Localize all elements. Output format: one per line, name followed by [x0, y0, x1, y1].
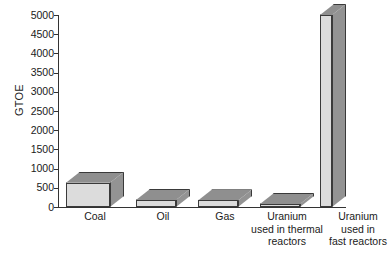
bar-oil-1[interactable]: [136, 189, 190, 207]
bar-3d-box: [198, 189, 252, 207]
y-axis-tick-mark: [54, 34, 58, 35]
bar-uranium-3[interactable]: [260, 193, 314, 207]
y-axis-tick-mark: [54, 73, 58, 74]
bar-3d-box: [136, 189, 190, 207]
x-axis-tick-label-line: Coal: [60, 210, 130, 223]
bar-uranium-4[interactable]: [320, 4, 346, 207]
bar-front-face: [66, 183, 110, 207]
plot-area: [58, 8, 346, 208]
y-axis-tick-mark: [54, 111, 58, 112]
bar-front-face: [136, 200, 176, 207]
y-axis-tick-label: 0: [22, 202, 54, 213]
x-axis-tick-label: Coal: [60, 210, 130, 223]
x-axis-tick-label-line: used in: [312, 223, 392, 236]
y-axis-tick-labels: 0500100015002000250030003500400045005000: [22, 10, 54, 213]
y-axis-tick-mark: [54, 130, 58, 131]
y-axis-tick-label: 2500: [22, 106, 54, 117]
y-axis-tick-mark: [54, 169, 58, 170]
y-axis-tick-label: 1000: [22, 163, 54, 174]
bar-side-face: [332, 4, 346, 207]
y-axis-tick-mark: [54, 149, 58, 150]
bar-3d-box: [320, 4, 346, 207]
x-axis-tick-labels: CoalOilGasUraniumused in thermalreactors…: [58, 210, 346, 264]
x-axis-tick-label-line: Uranium: [312, 210, 392, 223]
x-axis-tick-label: Oil: [133, 210, 193, 223]
y-axis-tick-label: 3500: [22, 67, 54, 78]
y-axis-tick-mark: [54, 15, 58, 16]
y-axis-tick-label: 2000: [22, 125, 54, 136]
bar-3d-box: [66, 172, 124, 207]
y-axis-tick-label: 1500: [22, 144, 54, 155]
y-axis-tick-mark: [54, 92, 58, 93]
bar-front-face: [198, 200, 238, 207]
x-axis-tick-label: Uraniumused infast reactors: [312, 210, 392, 248]
y-axis-tick-label: 5000: [22, 10, 54, 21]
bar-3d-box: [260, 193, 314, 207]
bar-front-face: [320, 15, 332, 207]
bar-gas-2[interactable]: [198, 189, 252, 207]
y-axis-tick-mark: [54, 53, 58, 54]
y-axis-tick-label: 4500: [22, 29, 54, 40]
y-axis-tick-label: 500: [22, 182, 54, 193]
x-axis-tick-label-line: Oil: [133, 210, 193, 223]
y-axis-tick-label: 4000: [22, 48, 54, 59]
bar-front-face: [260, 204, 300, 207]
y-axis-tick-mark: [54, 188, 58, 189]
y-axis-tick-label: 3000: [22, 86, 54, 97]
y-axis-tick-mark: [54, 207, 58, 208]
bar-coal-0[interactable]: [66, 172, 124, 207]
x-axis-tick-label-line: fast reactors: [312, 235, 392, 248]
